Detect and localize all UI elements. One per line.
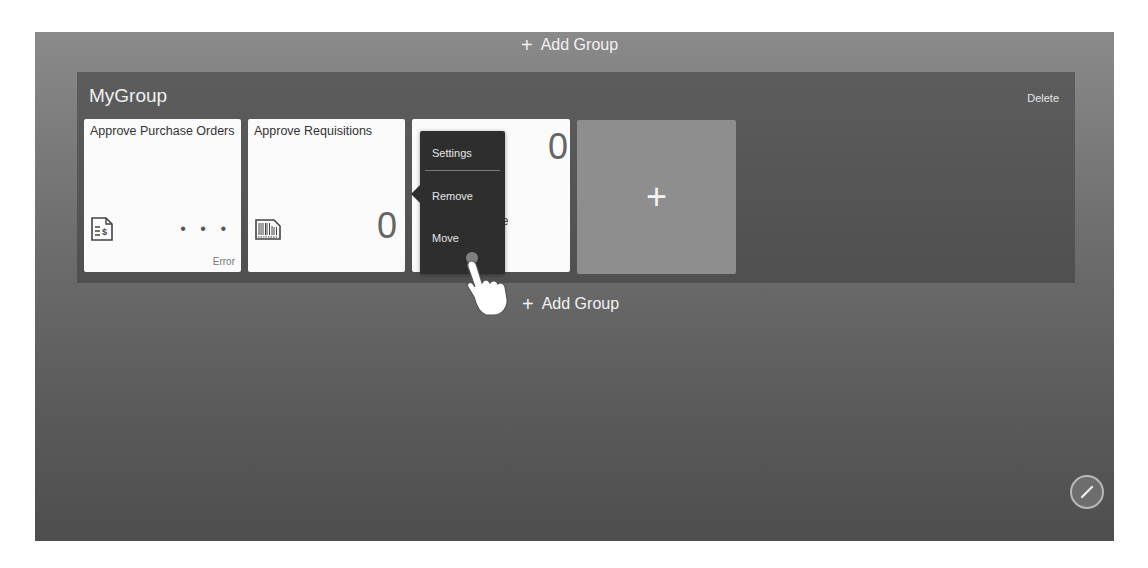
plus-icon: + <box>521 35 533 55</box>
tile-approve-requisitions[interactable]: Approve Requisitions 0 <box>248 119 405 272</box>
svg-text:$: $ <box>102 227 107 237</box>
tile-title: Approve Requisitions <box>254 125 399 138</box>
hand-pointer-icon <box>460 247 520 319</box>
plus-icon: + <box>522 294 534 314</box>
delete-group-button[interactable]: Delete <box>1027 92 1059 104</box>
pencil-icon <box>1079 484 1095 500</box>
add-group-label: Add Group <box>542 295 619 313</box>
menu-item-remove[interactable]: Remove <box>420 177 505 215</box>
tile-title: Approve Purchase Orders <box>90 125 235 138</box>
edit-button[interactable] <box>1070 475 1104 509</box>
group-title[interactable]: MyGroup <box>89 85 167 107</box>
add-tile-button[interactable]: + <box>577 120 736 274</box>
plus-icon: + <box>646 176 667 218</box>
add-group-top-button[interactable]: + Add Group <box>521 35 618 55</box>
tile-count: 0 <box>377 208 397 244</box>
barcode-document-icon <box>254 214 284 242</box>
add-group-label: Add Group <box>541 36 618 54</box>
tile-status: Error <box>213 256 235 267</box>
launchpad-screen: + Add Group MyGroup Delete Approve Purch… <box>35 32 1114 541</box>
menu-item-settings[interactable]: Settings <box>425 135 500 171</box>
add-group-bottom-button[interactable]: + Add Group <box>522 294 619 314</box>
tile-approve-purchase-orders[interactable]: Approve Purchase Orders $ • • • Error <box>84 119 241 272</box>
group-panel: MyGroup Delete Approve Purchase Orders $… <box>77 72 1075 283</box>
tile-value-loading: • • • <box>180 220 231 238</box>
tile-count: 0 <box>548 129 568 165</box>
purchase-order-dollar-icon: $ <box>90 214 114 242</box>
